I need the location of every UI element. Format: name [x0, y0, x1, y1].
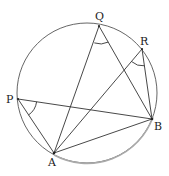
- segment-pa: [18, 99, 54, 153]
- point-r: [141, 48, 143, 50]
- point-a: [53, 152, 56, 155]
- point-p: [17, 98, 19, 100]
- segment-qa: [54, 26, 99, 153]
- label-q: Q: [95, 10, 104, 23]
- circle-theorem-diagram: Q R P B A: [0, 0, 169, 176]
- point-b: [151, 118, 154, 121]
- label-b: B: [154, 120, 162, 133]
- label-a: A: [47, 156, 57, 169]
- label-r: R: [140, 35, 149, 48]
- label-p: P: [6, 93, 14, 106]
- angle-apb-marker: [29, 102, 37, 115]
- segment-rb: [142, 49, 152, 119]
- point-q: [98, 25, 100, 27]
- angle-aqb-marker: [94, 42, 108, 44]
- angle-arb-marker: [132, 62, 145, 66]
